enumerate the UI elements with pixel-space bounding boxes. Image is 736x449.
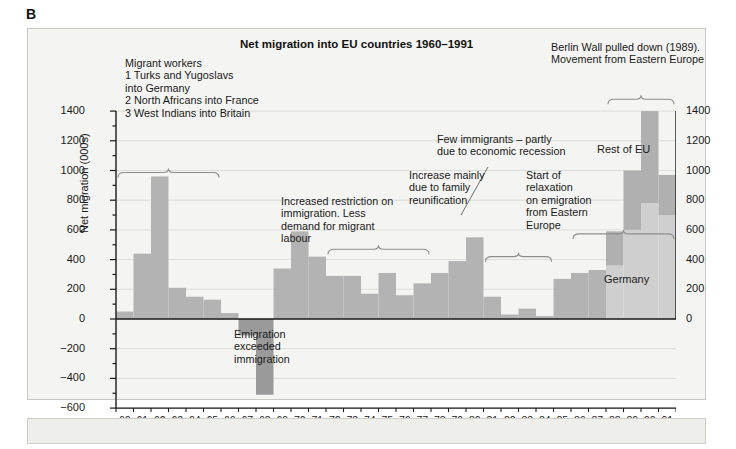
bar-71-germany — [309, 257, 327, 319]
bar-73-germany — [344, 276, 362, 319]
panel-letter: B — [26, 6, 36, 22]
y-tick-right-1400: 1400 — [686, 104, 710, 116]
bar-62-germany — [151, 176, 169, 319]
legend-item-2: 2 North Africans into France — [125, 94, 259, 106]
legend-item-1: 1 Turks and Yugoslavs — [125, 69, 259, 81]
y-tick-right-400: 400 — [686, 253, 704, 265]
annotation-recession: Few immigrants – partly due to economic … — [437, 133, 617, 158]
bar-90-rest-of-eu — [641, 111, 659, 203]
bar-65-germany — [204, 300, 222, 319]
bar-91-germany — [659, 215, 677, 319]
bar-91-rest-of-eu — [659, 175, 677, 215]
figure-footer-box — [27, 418, 706, 444]
bar-86-germany — [571, 273, 589, 319]
series-label-germany: Germany — [604, 273, 649, 285]
bar-79-germany — [449, 261, 467, 319]
y-tick-left-200: 200 — [41, 282, 85, 294]
bar-63-germany — [169, 288, 187, 319]
bar-77-germany — [414, 283, 432, 319]
y-tick-left-1000: 1000 — [41, 164, 85, 176]
bar-90-germany — [641, 203, 659, 319]
bar-81-germany — [484, 297, 502, 319]
legend-item-3: 3 West Indians into Britain — [125, 107, 259, 119]
y-tick-right-1200: 1200 — [686, 134, 710, 146]
annotation-berlin-wall: Berlin Wall pulled down (1989). Movement… — [551, 41, 736, 66]
bar-75-germany — [379, 273, 397, 319]
series-label-rest-of-eu: Rest of EU — [597, 143, 650, 155]
legend-header: Migrant workers — [125, 57, 259, 69]
y-tick-left--400: −400 — [41, 371, 85, 383]
y-tick-left-600: 600 — [41, 223, 85, 235]
bar-78-germany — [431, 273, 449, 319]
bar-69-germany — [274, 269, 292, 319]
bar-72-germany — [326, 276, 344, 319]
y-tick-right-1000: 1000 — [686, 164, 710, 176]
migrant-workers-legend: Migrant workers 1 Turks and Yugoslavs in… — [125, 57, 259, 119]
annotation-restriction: Increased restriction on immigration. Le… — [281, 195, 401, 245]
y-tick-right-200: 200 — [686, 282, 704, 294]
y-tick-left-1200: 1200 — [41, 134, 85, 146]
y-tick-left-1400: 1400 — [41, 104, 85, 116]
bar-80-germany — [466, 237, 484, 319]
legend-item-1b: into Germany — [125, 82, 259, 94]
bar-88-rest-of-eu — [606, 231, 624, 265]
bar-61-germany — [134, 254, 152, 319]
annotation-emigration: Emigration exceeded immigration — [234, 328, 344, 365]
y-tick-left--200: −200 — [41, 342, 85, 354]
figure-panel: B Net migration into EU countries 1960–1… — [0, 0, 736, 449]
figure-box: Net migration into EU countries 1960–199… — [27, 28, 706, 400]
y-tick-left-400: 400 — [41, 253, 85, 265]
bar-64-germany — [186, 297, 204, 319]
bar-74-germany — [361, 294, 379, 319]
bar-60-germany — [116, 312, 134, 319]
y-tick-left--600: −600 — [41, 401, 85, 413]
y-tick-left-800: 800 — [41, 193, 85, 205]
chart-title: Net migration into EU countries 1960–199… — [240, 38, 473, 50]
bar-66-germany — [221, 313, 239, 319]
bar-89-rest-of-eu — [624, 171, 642, 230]
bar-83-germany — [519, 309, 537, 319]
y-tick-right-600: 600 — [686, 223, 704, 235]
annotation-family-reunification: Increase mainly due to family reunificat… — [409, 169, 519, 206]
y-tick-right-800: 800 — [686, 193, 704, 205]
bar-76-germany — [396, 295, 414, 319]
plot-area: Net migration (000s) Year 14001200100080… — [89, 83, 676, 409]
bar-85-germany — [554, 279, 572, 319]
annotation-relaxation: Start of relaxation on emigration from E… — [526, 169, 602, 231]
y-tick-left-0: 0 — [41, 312, 85, 324]
y-tick-right-0: 0 — [686, 312, 692, 324]
